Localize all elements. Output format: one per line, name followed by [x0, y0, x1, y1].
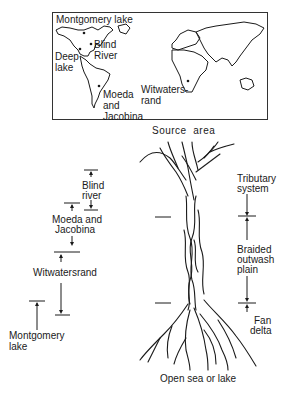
asia-outline	[196, 22, 264, 66]
source-area-label: Source area	[152, 125, 215, 136]
scale-label-montgomery-1: Montgomery	[9, 330, 65, 341]
open-sea-label: Open sea or lake	[160, 373, 236, 384]
map-label-moeda-3: Jacobina	[103, 111, 143, 122]
moeda-dot	[98, 85, 101, 88]
scale-label-witwatersrand: Witwatersrand	[33, 267, 97, 278]
zone-label-tributary-2: system	[237, 183, 269, 194]
blind-river-dot	[90, 43, 93, 46]
map-label-moeda-2: and	[103, 100, 120, 111]
greenland-outline	[118, 24, 130, 34]
zone-label-braided-3: plain	[237, 264, 258, 275]
witwatersrand-dot	[187, 80, 190, 83]
map-label-blind-river-1: Blind	[94, 39, 116, 50]
map-label-montgomery-lake: Montgomery lake	[56, 14, 133, 25]
map-label-witwatersrand-1: Witwaters-	[141, 84, 188, 95]
map-label-witwatersrand-2: rand	[141, 95, 161, 106]
australia-outline	[240, 78, 254, 90]
scale-label-montgomery-2: lake	[9, 341, 27, 352]
montgomery-lake-dot	[83, 32, 86, 35]
map-label-moeda-1: Moeda	[103, 89, 134, 100]
map-label-deep-lake-2: lake	[55, 62, 73, 73]
europe-outline	[172, 30, 200, 50]
zone-label-fan-2: delta	[250, 325, 272, 336]
map-label-deep-lake-1: Deep	[55, 51, 79, 62]
scale-label-moeda-2: Jacobina	[55, 224, 95, 235]
map-label-blind-river-2: River	[94, 50, 117, 61]
scale-label-blind-2: river	[82, 190, 101, 201]
deep-lake-dot	[79, 48, 82, 51]
